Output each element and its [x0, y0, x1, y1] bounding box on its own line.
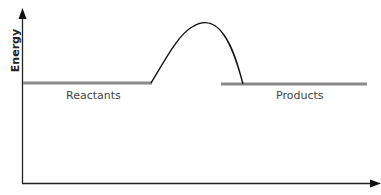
- reactants-label: Reactants: [66, 89, 121, 102]
- products-label: Products: [276, 89, 324, 102]
- activation-curve: [151, 23, 243, 84]
- y-axis-arrow-icon: [19, 8, 27, 19]
- x-axis: [22, 180, 381, 188]
- x-axis-arrow-icon: [370, 180, 381, 188]
- y-axis-label: Energy: [9, 26, 22, 76]
